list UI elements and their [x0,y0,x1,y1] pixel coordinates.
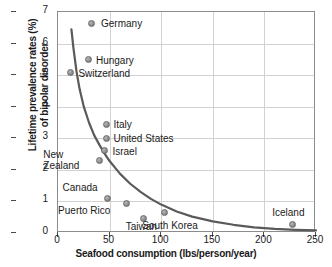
data-point-label: Israel [112,146,136,157]
data-point-marker[interactable] [104,195,111,202]
y-tick-mark [11,43,16,44]
y-tick-label: 6 [24,36,48,47]
y-tick-mark [11,200,16,201]
data-point-label-line: Hungary [96,55,134,66]
x-tick-label: 0 [42,234,72,245]
data-point-label-line: Iceland [272,207,304,218]
y-tick-mark [11,169,16,170]
data-point-marker[interactable] [289,221,296,228]
y-tick-mark [11,232,16,233]
x-tick-label: 50 [94,234,124,245]
y-tick-label: 7 [24,4,48,15]
y-tick-label: 5 [24,67,48,78]
x-axis-title: Seafood consumption (lbs/person/year) [0,248,332,259]
data-point-label: Germany [101,18,142,29]
x-tick-label: 250 [300,234,330,245]
data-point-marker[interactable] [67,69,74,76]
data-point-label-line: Canada [63,182,98,193]
data-point-label: Switzerland [78,68,130,79]
trend-curve [58,12,316,233]
y-tick-label: 1 [24,193,48,204]
data-point-label-line: United States [114,133,174,144]
data-point-label-line: Israel [112,146,136,157]
data-point-marker[interactable] [88,20,95,27]
y-tick-mark [11,74,16,75]
data-point-label-line: Switzerland [78,68,130,79]
data-point-label-line: New [43,149,95,160]
data-point-label: United States [114,133,174,144]
y-tick-mark [11,106,16,107]
data-point-label: Canada [63,182,98,193]
y-tick-label: 4 [24,99,48,110]
data-point-label: Hungary [96,55,134,66]
data-point-label: South Korea [142,220,198,231]
x-tick-label: 200 [248,234,278,245]
data-point-label: NewZealand [43,149,95,171]
data-point-label-line: South Korea [142,220,198,231]
x-tick-label: 150 [197,234,227,245]
data-point-marker[interactable] [96,157,103,164]
data-point-label-line: Italy [114,119,132,130]
data-point-marker[interactable] [103,121,110,128]
y-tick-mark [11,137,16,138]
data-point-label: Iceland [272,207,304,218]
data-point-label: Puerto Rico [58,205,110,216]
data-point-label-line: Germany [101,18,142,29]
data-point-label: Italy [114,119,132,130]
scatter-chart-figure: Lifetime prevalence rates (%) of bipolar… [0,0,332,267]
data-point-marker[interactable] [103,135,110,142]
data-point-label-line: Puerto Rico [58,205,110,216]
y-tick-mark [11,11,16,12]
x-tick-label: 100 [145,234,175,245]
plot-area: GermanyHungarySwitzerlandItalyUnited Sta… [57,11,315,232]
y-tick-label: 3 [24,130,48,141]
data-point-label-line: Zealand [43,160,95,171]
y-axis-title-line1: Lifetime prevalence rates (%) [27,0,39,185]
